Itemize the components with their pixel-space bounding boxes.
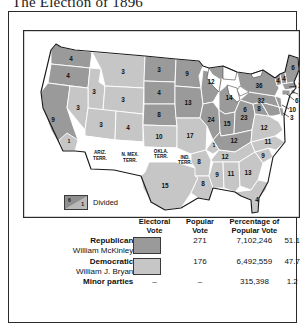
svg-text:1: 1 bbox=[213, 142, 216, 148]
divided-swatch: 6 1 bbox=[64, 195, 88, 210]
svg-text:23: 23 bbox=[240, 114, 248, 121]
svg-text:10: 10 bbox=[155, 133, 163, 140]
table-header-row: Electoral Vote Popular Vote Percentage o… bbox=[23, 217, 300, 236]
svg-text:12: 12 bbox=[221, 153, 229, 160]
election-results-table: Electoral Vote Popular Vote Percentage o… bbox=[23, 217, 300, 286]
svg-text:13: 13 bbox=[244, 169, 252, 176]
svg-text:6: 6 bbox=[243, 106, 247, 113]
democratic-percentage: 47.7 bbox=[284, 257, 300, 278]
map-legend-divided: 6 1 Divided bbox=[64, 195, 118, 210]
svg-text:13: 13 bbox=[184, 99, 192, 106]
svg-text:15: 15 bbox=[161, 182, 169, 189]
svg-text:8: 8 bbox=[257, 105, 261, 112]
democratic-candidate-name: William J. Bryan bbox=[23, 267, 133, 277]
svg-text:8: 8 bbox=[157, 111, 161, 118]
svg-text:6: 6 bbox=[295, 97, 299, 104]
table-row: Democratic William J. Bryan 176 6,492,55… bbox=[23, 257, 300, 278]
divided-swatch-number-b: 1 bbox=[81, 202, 84, 207]
minor-parties-electoral-vote: – bbox=[176, 277, 225, 286]
svg-text:9: 9 bbox=[215, 171, 219, 178]
republican-swatch-cell bbox=[133, 236, 175, 257]
header-electoral-vote: Electoral Vote bbox=[133, 217, 175, 236]
svg-text:9: 9 bbox=[185, 70, 189, 77]
svg-text:3: 3 bbox=[121, 68, 125, 75]
header-percentage-line2: Popular Vote bbox=[224, 226, 284, 235]
minor-parties-label: Minor parties bbox=[23, 277, 133, 286]
svg-text:3: 3 bbox=[290, 114, 294, 121]
figure-frame: 4 4 3 3 3 4 8 3 3 3 4 9 1 10 9 13 17 bbox=[8, 11, 297, 323]
svg-text:11: 11 bbox=[228, 170, 235, 177]
header-percentage: Percentage of Popular Vote bbox=[224, 217, 284, 236]
democratic-party-name: Democratic bbox=[23, 257, 133, 267]
democratic-electoral-vote: 176 bbox=[176, 257, 225, 278]
minor-parties-swatch-dash: – bbox=[133, 277, 175, 286]
svg-text:14: 14 bbox=[225, 94, 233, 101]
svg-text:12: 12 bbox=[230, 137, 238, 144]
svg-text:15: 15 bbox=[223, 120, 231, 127]
table-row: Republican William McKinley 271 7,102,24… bbox=[23, 236, 300, 257]
header-party-blank bbox=[23, 217, 133, 236]
svg-text:4: 4 bbox=[66, 72, 70, 79]
svg-text:4: 4 bbox=[276, 77, 280, 84]
svg-text:3: 3 bbox=[76, 104, 80, 111]
header-electoral-vote-line2: Vote bbox=[133, 226, 175, 235]
svg-text:9: 9 bbox=[261, 152, 265, 159]
svg-text:4: 4 bbox=[126, 124, 130, 131]
divided-legend-label: Divided bbox=[93, 198, 118, 207]
header-electoral-vote-line1: Electoral bbox=[133, 217, 175, 226]
page-title: The Election of 1896 bbox=[12, 0, 143, 11]
svg-text:TERR.: TERR. bbox=[123, 158, 137, 163]
svg-text:TERR.: TERR. bbox=[178, 160, 192, 165]
minor-parties-percentage: 1.2 bbox=[284, 277, 300, 286]
svg-text:9: 9 bbox=[51, 116, 55, 123]
table-row: Minor parties – – 315,398 1.2 bbox=[23, 277, 300, 286]
svg-text:4: 4 bbox=[255, 196, 259, 203]
democratic-popular-vote: 6,492,559 bbox=[224, 257, 284, 278]
svg-text:N. MEX.: N. MEX. bbox=[121, 152, 138, 157]
header-percentage-line1: Percentage of bbox=[224, 217, 284, 226]
republican-party-cell: Republican William McKinley bbox=[23, 236, 133, 257]
svg-text:11: 11 bbox=[265, 138, 272, 145]
svg-text:4: 4 bbox=[299, 91, 300, 98]
svg-text:ARIZ.: ARIZ. bbox=[94, 150, 106, 155]
svg-text:10: 10 bbox=[289, 106, 297, 113]
minor-parties-popular-vote: 315,398 bbox=[224, 277, 284, 286]
svg-text:17: 17 bbox=[186, 132, 194, 139]
svg-text:TERR.: TERR. bbox=[93, 156, 107, 161]
republican-color-swatch bbox=[133, 237, 161, 254]
svg-text:36: 36 bbox=[255, 82, 263, 89]
svg-text:3: 3 bbox=[121, 96, 125, 103]
svg-text:24: 24 bbox=[207, 116, 215, 123]
election-map-figure: The Election of 1896 bbox=[0, 0, 305, 334]
republican-party-name: Republican bbox=[23, 236, 133, 246]
svg-text:12: 12 bbox=[207, 78, 215, 85]
us-electoral-map: 4 4 3 3 3 4 8 3 3 3 4 9 1 10 9 13 17 bbox=[23, 30, 300, 218]
republican-percentage: 51.1 bbox=[284, 236, 300, 257]
svg-text:8: 8 bbox=[197, 158, 201, 165]
header-popular-vote: Popular Vote bbox=[176, 217, 225, 236]
svg-text:1: 1 bbox=[68, 138, 71, 144]
svg-text:3: 3 bbox=[92, 88, 96, 95]
democratic-color-swatch bbox=[133, 258, 161, 275]
header-popular-vote-line2: Vote bbox=[176, 226, 225, 235]
svg-text:3: 3 bbox=[157, 66, 161, 73]
header-popular-vote-line1: Popular bbox=[176, 217, 225, 226]
democratic-swatch-cell bbox=[133, 257, 175, 278]
map-svg: 4 4 3 3 3 4 8 3 3 3 4 9 1 10 9 13 17 bbox=[23, 30, 300, 218]
svg-text:6: 6 bbox=[291, 64, 295, 71]
divided-swatch-number-a: 6 bbox=[68, 198, 71, 203]
republican-candidate-name: William McKinley bbox=[23, 246, 133, 256]
svg-text:4: 4 bbox=[282, 75, 286, 82]
svg-text:12: 12 bbox=[260, 124, 268, 131]
svg-text:32: 32 bbox=[257, 97, 265, 104]
svg-text:8: 8 bbox=[201, 180, 205, 187]
svg-text:TERR.: TERR. bbox=[154, 154, 168, 159]
svg-text:4: 4 bbox=[69, 55, 73, 62]
republican-popular-vote: 7,102,246 bbox=[224, 236, 284, 257]
democratic-party-cell: Democratic William J. Bryan bbox=[23, 257, 133, 278]
svg-text:15: 15 bbox=[298, 82, 300, 89]
svg-text:3: 3 bbox=[99, 121, 103, 128]
republican-electoral-vote: 271 bbox=[176, 236, 225, 257]
svg-text:4: 4 bbox=[157, 89, 161, 96]
